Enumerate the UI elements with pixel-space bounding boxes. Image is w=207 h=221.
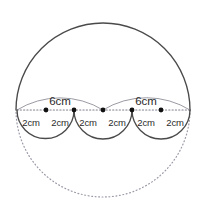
point-marker-p3	[72, 108, 77, 113]
geometry-figure: 2cm2cm2cm2cm2cm2cm 6cm6cm	[0, 0, 207, 221]
scallop-arc-group	[17, 110, 190, 139]
label-span-right: 6cm	[135, 96, 156, 108]
label-seg-4: 2cm	[108, 118, 125, 128]
point-marker-p4	[101, 108, 106, 113]
label-span-left: 6cm	[49, 96, 70, 108]
label-seg-2: 2cm	[51, 118, 68, 128]
point-marker-p2	[44, 108, 49, 113]
label-seg-5: 2cm	[137, 118, 154, 128]
label-seg-1: 2cm	[22, 118, 39, 128]
label-seg-3: 2cm	[79, 118, 96, 128]
big-circle-upper-solid-arc	[16, 23, 190, 110]
big-circle-lower-dotted-arc	[16, 110, 190, 197]
point-marker-p5	[130, 108, 135, 113]
geometry-diagram-svg	[0, 0, 207, 221]
label-seg-6: 2cm	[166, 118, 183, 128]
point-marker-p6	[159, 108, 164, 113]
